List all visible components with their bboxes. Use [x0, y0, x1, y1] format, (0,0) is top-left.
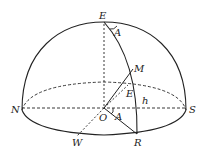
label-angle-bottom: A: [114, 111, 122, 122]
label-origin: O: [99, 112, 107, 123]
label-south: S: [189, 104, 196, 115]
label-e-inner: E: [125, 88, 134, 99]
label-north: N: [10, 104, 21, 115]
oe-line: [104, 85, 128, 108]
angle-arc-bottom: [111, 108, 113, 114]
label-zenith: E: [98, 10, 107, 21]
label-r: R: [133, 137, 142, 148]
label-h: h: [142, 95, 148, 106]
label-west: W: [72, 137, 83, 148]
label-m: M: [133, 63, 145, 74]
celestial-sphere-diagram: E A M E h N S O A W R: [0, 0, 205, 154]
label-angle-top: A: [113, 27, 121, 38]
